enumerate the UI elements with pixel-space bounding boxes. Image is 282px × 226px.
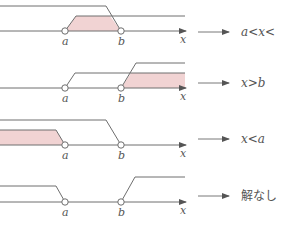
- label-x: x: [180, 34, 186, 45]
- left-graph-line: [0, 186, 65, 202]
- open-point-a: [62, 28, 68, 34]
- result-text: x>b: [241, 77, 266, 89]
- shaded-region: [121, 73, 185, 88]
- label-a: a: [62, 207, 69, 218]
- shaded-region: [0, 130, 65, 145]
- panel-3: [0, 120, 229, 148]
- open-point-b: [118, 28, 124, 34]
- label-x: x: [180, 91, 186, 102]
- result-text: x<a: [241, 133, 265, 145]
- label-a: a: [62, 150, 69, 161]
- open-point-b: [118, 85, 124, 91]
- panel-2: [0, 63, 229, 91]
- open-point-a: [62, 85, 68, 91]
- right-graph-line: [121, 177, 185, 202]
- diagram-canvas: [0, 0, 282, 226]
- shaded-region: [65, 16, 121, 31]
- label-x: x: [180, 148, 186, 159]
- label-b: b: [118, 150, 125, 161]
- panel-1: [0, 6, 229, 34]
- label-b: b: [118, 36, 125, 47]
- label-b: b: [118, 207, 125, 218]
- open-point-b: [118, 142, 124, 148]
- label-a: a: [62, 36, 69, 47]
- label-x: x: [180, 205, 186, 216]
- panel-4: [0, 177, 229, 205]
- open-point-b: [118, 199, 124, 205]
- open-point-a: [62, 142, 68, 148]
- label-a: a: [62, 93, 69, 104]
- open-point-a: [62, 199, 68, 205]
- label-b: b: [118, 93, 125, 104]
- result-text: a<x<: [241, 26, 275, 38]
- result-text: 解なし: [241, 190, 277, 202]
